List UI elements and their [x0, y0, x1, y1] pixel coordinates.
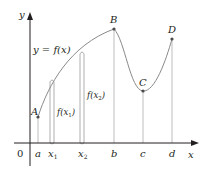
- points: [36, 27, 173, 118]
- fx1-label-close: ): [71, 107, 75, 117]
- origin-label: 0: [17, 148, 23, 159]
- fx2-label: f(x2): [86, 90, 105, 101]
- point-d-marker: [170, 37, 173, 40]
- x-axis-label: x: [188, 149, 194, 160]
- fx1-label-base: f(x: [56, 107, 68, 117]
- fx2-bar: [80, 52, 84, 144]
- fx2-label-close: ): [101, 90, 105, 100]
- curve-label-text: y = f(x): [32, 44, 71, 55]
- tick-c: c: [140, 148, 146, 159]
- fx1-label: f(x1): [56, 107, 75, 118]
- fx2-label-base: f(x: [86, 90, 98, 100]
- tick-x1: x1: [48, 148, 57, 160]
- point-a-label: A: [30, 106, 38, 117]
- point-c-label: C: [139, 77, 147, 88]
- point-b-label: B: [109, 14, 117, 25]
- point-b-marker: [112, 27, 115, 30]
- point-c-marker: [141, 89, 144, 92]
- tick-x2: x2: [78, 148, 88, 160]
- point-d-label: D: [167, 24, 176, 35]
- function-graph-diagram: y x 0 y = f(x) A B C D a x1 x2 b c d f(x…: [0, 0, 204, 173]
- tick-b: b: [111, 148, 117, 159]
- tick-d: d: [169, 148, 175, 159]
- tick-x2-sub: 2: [84, 153, 88, 160]
- tick-x1-sub: 1: [54, 153, 58, 160]
- function-curve: [38, 29, 172, 117]
- y-axis-label: y: [18, 9, 25, 20]
- y-axis-arrow-icon: [27, 12, 33, 20]
- fx1-bar: [50, 80, 54, 144]
- tick-a: a: [35, 148, 41, 159]
- x-axis-arrow-icon: [191, 140, 199, 146]
- curve-label: y = f(x): [32, 44, 71, 55]
